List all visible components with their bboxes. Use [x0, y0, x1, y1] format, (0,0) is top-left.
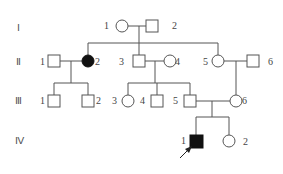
label-II-4: 4 [175, 56, 180, 67]
label-II-2: 2 [95, 56, 100, 67]
individual-I-1-female [116, 20, 128, 32]
individual-I-2-male [146, 20, 158, 32]
individual-II-2-affected-female [82, 55, 94, 67]
generation-label-4: Ⅳ [15, 135, 25, 146]
label-II-3: 3 [119, 56, 124, 67]
label-I-2: 2 [172, 20, 177, 31]
label-III-5: 5 [173, 95, 178, 106]
label-III-6: 6 [242, 95, 247, 106]
proband-arrow-icon [180, 146, 192, 158]
label-I-1: 1 [104, 20, 109, 31]
generation-label-3: Ⅲ [15, 95, 22, 106]
label-II-6: 6 [268, 56, 273, 67]
individual-III-3-female [122, 95, 134, 107]
individual-II-3-male [133, 55, 145, 67]
individual-III-4-male [151, 95, 163, 107]
label-II-1: 1 [40, 56, 45, 67]
generation-label-1: Ⅰ [17, 22, 20, 33]
individual-III-1-male [48, 95, 60, 107]
individual-II-6-male [247, 55, 259, 67]
label-II-5: 5 [203, 56, 208, 67]
generation-label-2: Ⅱ [16, 56, 21, 67]
label-III-2: 2 [96, 95, 101, 106]
label-III-3: 3 [112, 95, 117, 106]
individual-IV-2-female [223, 135, 235, 147]
label-IV-2: 2 [243, 136, 248, 147]
individual-III-5-male [184, 95, 196, 107]
individual-II-5-female [212, 55, 224, 67]
pedigree-chart: Ⅰ Ⅱ Ⅲ Ⅳ 1 2 1 2 3 4 5 6 1 2 3 4 5 6 [0, 0, 283, 174]
individual-II-1-male [48, 55, 60, 67]
label-III-4: 4 [140, 95, 145, 106]
individual-III-6-female [230, 95, 242, 107]
label-IV-1: 1 [181, 135, 186, 146]
individual-III-2-male [82, 95, 94, 107]
label-III-1: 1 [40, 95, 45, 106]
